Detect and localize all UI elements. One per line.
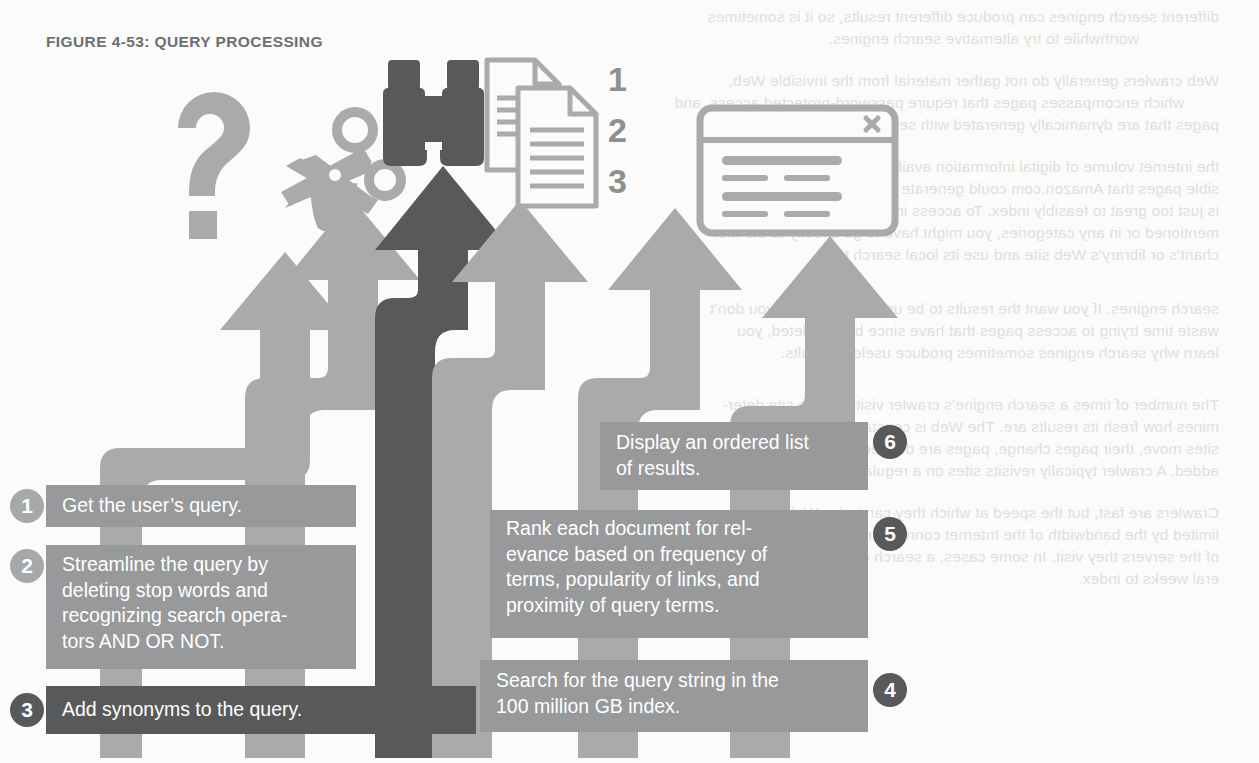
doc-numeral-3: 3 (608, 164, 627, 198)
binoculars-icon (383, 60, 484, 166)
doc-numeral-1: 1 (608, 62, 627, 96)
step-number-6: 6 (873, 425, 907, 459)
step-text-2: Streamline the query by deleting stop wo… (62, 552, 354, 654)
step-number-4: 4 (873, 673, 907, 707)
doc-numeral-2: 2 (608, 113, 627, 147)
step-text-3: Add synonyms to the query. (62, 697, 472, 723)
step-number-2: 2 (10, 549, 44, 583)
step-number-5: 5 (873, 517, 907, 551)
figure-page: different search engines can produce dif… (0, 0, 1259, 763)
step-text-4: Search for the query string in the 100 m… (496, 668, 864, 719)
browser-window-icon (700, 108, 895, 233)
figure-title: FIGURE 4-53: QUERY PROCESSING (46, 33, 323, 51)
documents-icon (487, 60, 596, 206)
step-text-1: Get the user’s query. (62, 493, 352, 519)
step-number-1: 1 (10, 489, 44, 523)
step-text-5: Rank each document for rel- evance based… (506, 516, 864, 618)
step-text-6: Display an ordered list of results. (616, 430, 866, 481)
question-mark-icon (178, 92, 250, 239)
step-number-3: 3 (10, 693, 44, 727)
